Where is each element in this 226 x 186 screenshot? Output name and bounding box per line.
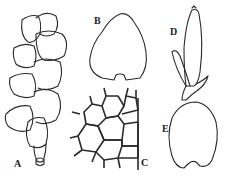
botanical-figure: A B C D E bbox=[0, 0, 226, 186]
panel-c-cells-drawing bbox=[70, 88, 138, 170]
panel-e-underleaf-drawing bbox=[169, 102, 217, 168]
panel-label-d: D bbox=[170, 27, 177, 37]
panel-a-shoot-drawing bbox=[5, 13, 66, 165]
panel-label-e: E bbox=[162, 124, 169, 134]
figure-drawing bbox=[0, 0, 226, 186]
panel-label-a: A bbox=[14, 159, 21, 169]
panel-d-perianth-drawing bbox=[172, 6, 208, 100]
panel-label-c: C bbox=[141, 158, 148, 168]
panel-label-b: B bbox=[94, 16, 101, 26]
